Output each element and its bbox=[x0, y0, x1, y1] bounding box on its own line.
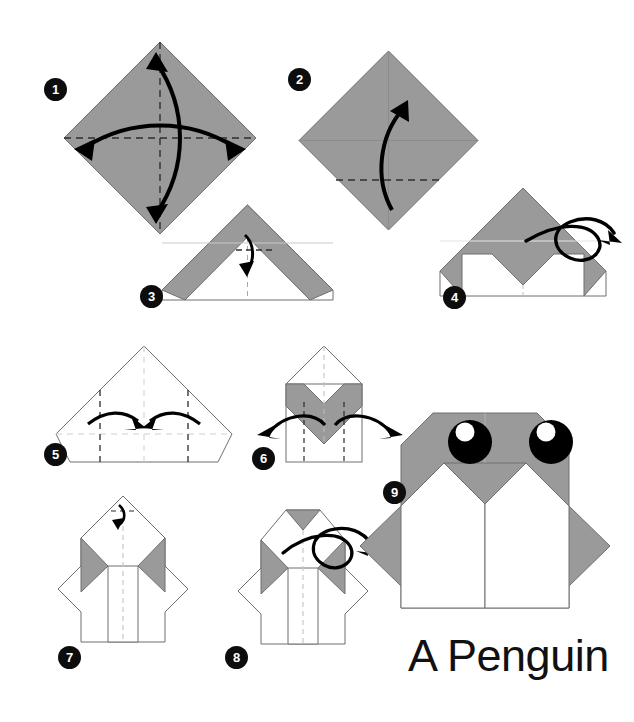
step-3-diagram bbox=[160, 203, 335, 303]
step-7-diagram bbox=[48, 492, 198, 652]
arrow-outward-left-curve bbox=[269, 416, 325, 433]
left-eye-highlight bbox=[456, 423, 475, 442]
right-eye-highlight bbox=[537, 423, 556, 442]
step-7-figure bbox=[48, 492, 198, 652]
step-5-figure bbox=[52, 344, 237, 466]
final-penguin-diagram bbox=[370, 408, 634, 630]
step-badge-7: 7 bbox=[58, 646, 81, 669]
paper-white-center-panel bbox=[108, 566, 138, 642]
step-4-figure bbox=[438, 186, 623, 304]
step-badge-8: 8 bbox=[225, 646, 248, 669]
origami-instruction-sheet: 1 2 3 bbox=[0, 0, 634, 722]
arrowhead-outward-left bbox=[257, 425, 281, 439]
step-badge-5: 5 bbox=[44, 443, 67, 466]
step-3-figure bbox=[160, 203, 335, 303]
step-badge-4: 4 bbox=[443, 286, 466, 309]
step-badge-9: 9 bbox=[383, 481, 406, 504]
step-5-diagram bbox=[52, 344, 237, 466]
page-title: A Penguin bbox=[408, 630, 609, 682]
step-badge-6: 6 bbox=[252, 447, 275, 470]
step-badge-2: 2 bbox=[288, 68, 311, 91]
step-4-diagram bbox=[438, 186, 623, 304]
step-badge-1: 1 bbox=[44, 78, 67, 101]
arrowhead-flip bbox=[598, 230, 622, 245]
step-9-figure bbox=[370, 408, 634, 630]
step-8-diagram bbox=[228, 506, 388, 654]
step-8-figure bbox=[228, 506, 388, 654]
step-badge-3: 3 bbox=[140, 285, 163, 308]
